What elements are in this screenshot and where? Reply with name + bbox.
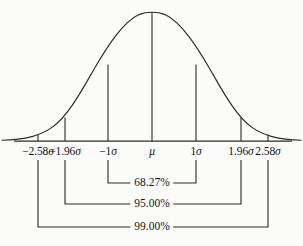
sigma-symbol: σ <box>75 145 81 157</box>
axis-tick-label-pos-1-96-sigma: 1.96σ <box>228 146 253 158</box>
tick-number: −1.96 <box>49 145 75 157</box>
tick-number: 2.58 <box>255 145 275 157</box>
sigma-symbol: σ <box>248 145 254 157</box>
interval-label-99: 99.00% <box>130 221 173 233</box>
sigma-symbol: σ <box>196 145 202 157</box>
axis-tick-label-mu: μ <box>149 146 155 158</box>
interval-label-68: 68.27% <box>130 177 173 189</box>
axis-tick-label-pos-1-sigma: 1σ <box>190 146 201 158</box>
sigma-symbol: σ <box>275 145 281 157</box>
normal-distribution-figure: −2.58σ −1.96σ −1σ μ 1σ 1.96σ 2.58σ 68.27… <box>0 0 303 246</box>
bracket-interval-99 <box>38 160 268 227</box>
tick-number: 1.96 <box>228 145 248 157</box>
mu-symbol: μ <box>149 145 155 157</box>
axis-tick-label-pos-2-58-sigma: 2.58σ <box>255 146 280 158</box>
axis-tick-label-neg-1-96-sigma: −1.96σ <box>49 146 81 158</box>
interval-label-95: 95.00% <box>130 198 173 210</box>
axis-tick-label-neg-1-sigma: −1σ <box>99 146 117 158</box>
tick-number: −2.58 <box>22 145 48 157</box>
sigma-symbol: σ <box>111 145 117 157</box>
tick-number: −1 <box>99 145 111 157</box>
